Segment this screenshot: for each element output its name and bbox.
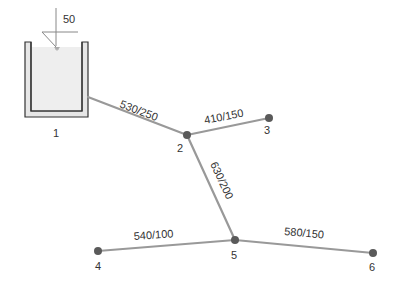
tank-head-value: 50 — [63, 13, 75, 25]
pipe-network-diagram: 50 1 530/250 410/150 630/200 540/100 580… — [0, 0, 397, 286]
node-5[interactable] — [231, 236, 239, 244]
node-label-4: 4 — [95, 260, 101, 272]
node-label-1: 1 — [53, 127, 59, 139]
node-2[interactable] — [183, 131, 191, 139]
node-4[interactable] — [94, 247, 102, 255]
pipe-4-5[interactable] — [98, 240, 235, 251]
node-label-5: 5 — [231, 249, 237, 261]
pipe-label-2-3: 410/150 — [203, 107, 244, 126]
node-label-3: 3 — [264, 124, 270, 136]
pipe-label-4-5: 540/100 — [133, 227, 174, 242]
node-6[interactable] — [369, 249, 377, 257]
node-label-2: 2 — [177, 142, 183, 154]
pipe-label-1-2: 530/250 — [118, 98, 159, 123]
node-label-6: 6 — [369, 261, 375, 273]
tank-icon — [25, 42, 88, 117]
node-3[interactable] — [265, 114, 273, 122]
pipe-label-2-5: 630/200 — [208, 160, 236, 201]
pipe-label-5-6: 580/150 — [284, 225, 325, 240]
pipe-5-6[interactable] — [235, 240, 373, 253]
